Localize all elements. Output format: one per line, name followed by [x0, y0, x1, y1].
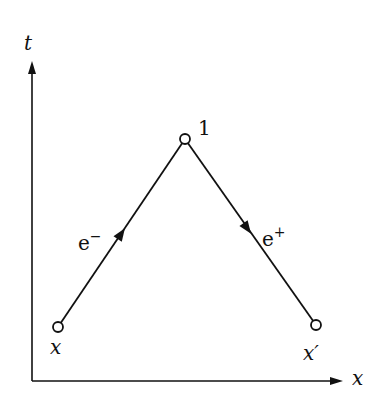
spacetime-diagram: t x e− e+ x 1 x′: [0, 0, 386, 402]
vertex-x-icon: [53, 322, 63, 332]
propagators: e− e+: [58, 139, 316, 327]
positron-label: e+: [262, 224, 286, 251]
electron-label: e−: [78, 228, 102, 255]
t-axis-label: t: [24, 31, 33, 55]
vertex-1-label: 1: [198, 116, 211, 140]
vertex-xprime-icon: [311, 320, 321, 330]
electron-arrow-icon: [113, 225, 129, 241]
vertex-xprime-label: x′: [303, 341, 319, 365]
vertex-x-label: x: [50, 335, 61, 359]
x-axis-arrowhead-icon: [330, 377, 343, 385]
axes: t x: [24, 31, 363, 390]
t-axis-arrowhead-icon: [28, 61, 36, 74]
vertex-1-icon: [180, 134, 190, 144]
x-axis-label: x: [352, 366, 363, 390]
